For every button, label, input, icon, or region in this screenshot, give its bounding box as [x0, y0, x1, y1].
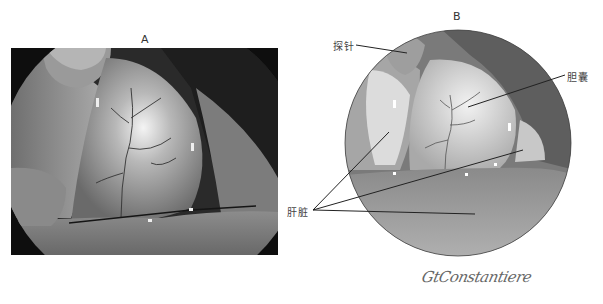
- artist-signature: GtConstantiere: [420, 268, 533, 286]
- gallbladder-label: 胆囊: [567, 69, 588, 84]
- probe-label: 探针: [333, 38, 354, 53]
- anatomical-illustration: [0, 0, 603, 304]
- liver-label: 肝脏: [287, 204, 308, 219]
